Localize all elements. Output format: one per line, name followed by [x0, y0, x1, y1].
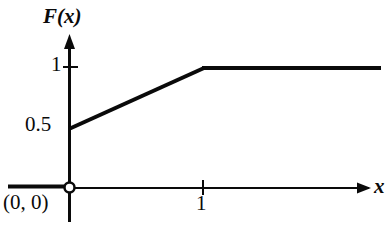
origin-open-circle-marker — [65, 183, 75, 193]
y-tick-label-one: 1 — [51, 54, 62, 75]
y-tick-label-half: 0.5 — [25, 114, 51, 135]
cdf-figure: F(x) x 1 0.5 1 (0, 0) — [0, 0, 392, 232]
y-axis-title: F(x) — [43, 6, 82, 27]
x-tick-label-one: 1 — [196, 193, 207, 214]
origin-label: (0, 0) — [3, 192, 49, 213]
x-axis-title: x — [374, 176, 385, 197]
y-axis-arrowhead — [64, 34, 75, 49]
cdf-ramp-segment — [70, 68, 204, 129]
x-axis-arrowhead — [357, 183, 371, 194]
